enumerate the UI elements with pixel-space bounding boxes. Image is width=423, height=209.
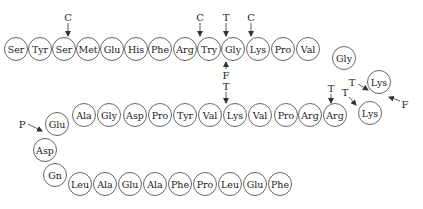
residue-label: Met [78, 44, 97, 55]
residue-label: Ser [8, 44, 25, 55]
residue-gly: Gly [222, 38, 245, 61]
residue-label: Val [300, 44, 316, 55]
residue-label: Pro [197, 179, 214, 190]
residue-val: Val [199, 104, 222, 127]
residue-ala: Ala [94, 173, 117, 196]
residue-tyr: Tyr [29, 38, 52, 61]
cleavage-marker-f: F [389, 97, 409, 110]
residue-label: Pro [152, 110, 169, 121]
residue-label: Lys [371, 77, 388, 88]
marker-label: C [247, 12, 255, 23]
residue-leu: Leu [219, 173, 242, 196]
residue-label: His [128, 44, 144, 55]
marker-label: P [19, 119, 26, 130]
marker-label: F [223, 70, 230, 81]
arrow-icon [358, 84, 368, 90]
residue-ser: Ser [53, 38, 76, 61]
residue-pro: Pro [194, 173, 217, 196]
residue-val: Val [297, 38, 320, 61]
residue-chain: SerTyrSerMetGluHisPheArgTryGlyLysProValG… [5, 38, 391, 196]
marker-label: T [223, 81, 230, 92]
residue-arg: Arg [174, 38, 197, 61]
cleavage-marker-t: T [223, 12, 230, 37]
residue-lys: Lys [224, 104, 247, 127]
marker-label: C [64, 12, 72, 23]
cleavage-marker-t: T [342, 87, 356, 106]
residue-label: Asp [35, 145, 54, 156]
residue-label: Gly [225, 44, 242, 55]
residue-lys: Lys [368, 71, 391, 94]
residue-asp: Asp [124, 104, 147, 127]
residue-glu: Glu [244, 173, 267, 196]
residue-arg: Arg [299, 104, 322, 127]
residue-phe: Phe [269, 173, 292, 196]
residue-phe: Phe [149, 38, 172, 61]
marker-label: F [402, 99, 409, 110]
residue-ser: Ser [5, 38, 28, 61]
residue-label: Val [202, 110, 218, 121]
residue-label: Gly [336, 53, 353, 64]
residue-pro: Pro [149, 104, 172, 127]
residue-ala: Ala [144, 173, 167, 196]
residue-pro: Pro [272, 38, 295, 61]
marker-label: T [342, 87, 349, 98]
residue-val: Val [249, 104, 272, 127]
residue-his: His [125, 38, 148, 61]
residue-label: Pro [278, 110, 295, 121]
residue-lys: Lys [247, 38, 270, 61]
residue-label: Ala [146, 179, 163, 190]
marker-label: T [349, 77, 356, 88]
residue-label: Glu [49, 119, 66, 130]
residue-label: Try [201, 44, 218, 55]
cleavage-marker-f: F [223, 62, 230, 81]
residue-pro: Pro [275, 104, 298, 127]
residue-asp: Asp [34, 139, 57, 162]
residue-label: Tyr [32, 44, 49, 55]
residue-glu: Glu [46, 113, 69, 136]
residue-label: Arg [175, 44, 193, 55]
marker-label: T [328, 83, 335, 94]
residue-ala: Ala [73, 104, 96, 127]
residue-label: Glu [104, 44, 121, 55]
residue-met: Met [77, 38, 100, 61]
cleavage-marker-t: T [328, 83, 335, 104]
residue-label: Lys [227, 110, 244, 121]
residue-label: Ser [56, 44, 73, 55]
arrow-icon [28, 124, 42, 131]
residue-label: Tyr [177, 110, 194, 121]
residue-arg: Arg [324, 104, 347, 127]
residue-label: Arg [300, 110, 318, 121]
residue-label: Val [252, 110, 268, 121]
cleavage-marker-t: T [223, 81, 230, 104]
residue-gly: Gly [333, 47, 356, 70]
residue-tyr: Tyr [174, 104, 197, 127]
marker-label: C [196, 12, 204, 23]
arrow-icon [389, 97, 400, 101]
residue-label: Gn [48, 170, 62, 181]
residue-label: Ala [75, 110, 92, 121]
residue-label: Glu [122, 179, 139, 190]
residue-label: Phe [151, 44, 170, 55]
residue-label: Arg [325, 110, 343, 121]
residue-gly: Gly [98, 104, 121, 127]
residue-label: Lys [250, 44, 267, 55]
cleavage-marker-c: C [196, 12, 204, 37]
cleavage-marker-c: C [64, 12, 72, 37]
residue-label: Ala [96, 179, 113, 190]
residue-phe: Phe [169, 173, 192, 196]
residue-lys: Lys [359, 102, 382, 125]
residue-label: Leu [221, 179, 239, 190]
residue-gn: Gn [44, 164, 67, 187]
residue-leu: Leu [69, 173, 92, 196]
cleavage-marker-c: C [247, 12, 255, 37]
residue-label: Lys [362, 108, 379, 119]
residue-label: Pro [275, 44, 292, 55]
cleavage-marker-t: T [349, 77, 368, 91]
residue-label: Phe [171, 179, 190, 190]
residue-glu: Glu [119, 173, 142, 196]
residue-label: Asp [125, 110, 144, 121]
residue-label: Glu [247, 179, 264, 190]
cleavage-marker-p: P [19, 119, 42, 132]
arrow-icon [349, 97, 356, 105]
sequence-diagram: SerTyrSerMetGluHisPheArgTryGlyLysProValG… [0, 0, 423, 209]
